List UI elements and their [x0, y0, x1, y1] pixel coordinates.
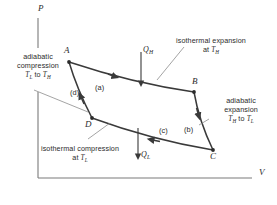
temperature-subscript-l-right: L [251, 118, 254, 124]
annotation-adiabatic-compression-line2: compression [0, 61, 76, 70]
at-prefix-th: at [203, 45, 211, 54]
step-label-d: (d) [70, 88, 79, 97]
annotation-isothermal-compression: isothermal compression at TL [24, 144, 136, 163]
step-label-c: (c) [159, 126, 168, 135]
annotation-adiabatic-expansion-line3: TH to TL [205, 114, 277, 124]
temperature-subscript-h: H [215, 49, 219, 55]
qh-subscript: H [149, 49, 153, 55]
annotation-adiabatic-expansion: adiabatic expansion TH to TL [205, 96, 277, 125]
temperature-subscript-h-left: H [47, 74, 51, 80]
to-connector-right: to [236, 114, 246, 123]
point-label-C: C [210, 152, 216, 161]
annotation-isothermal-expansion-line1: isothermal expansion [155, 36, 267, 45]
annotation-isothermal-expansion-line2: at TH [155, 45, 267, 55]
qh-symbol: Q [143, 45, 149, 54]
annotation-adiabatic-compression-line1: adiabatic [0, 52, 76, 61]
annotation-adiabatic-compression-line3: TL to TH [0, 70, 76, 80]
annotation-adiabatic-expansion-line1: adiabatic [205, 96, 277, 105]
to-connector-left: to [32, 70, 42, 79]
qh-arrowhead [138, 81, 144, 88]
ql-label: QL [141, 150, 150, 160]
process-a-curve [69, 62, 194, 92]
ql-subscript: L [147, 154, 150, 160]
step-label-a: (a) [95, 83, 104, 92]
temperature-subscript-l-left: L [29, 74, 32, 80]
annotation-adiabatic-compression: adiabatic compression TL to TH [0, 52, 76, 81]
annotation-adiabatic-expansion-line2: expansion [205, 105, 277, 114]
point-label-D: D [85, 120, 92, 129]
ql-symbol: Q [141, 150, 147, 159]
temperature-subscript-h-right: H [232, 118, 236, 124]
point-label-B: B [192, 77, 198, 86]
annotation-isothermal-compression-line2: at TL [24, 153, 136, 163]
process-c-arrowhead [150, 140, 160, 142]
carnot-cycle-figure: P V A B C D (a) (b) (c) (d) QH QL isothe… [0, 0, 277, 205]
x-axis-label: V [259, 168, 265, 177]
annotation-isothermal-compression-line1: isothermal compression [24, 144, 136, 153]
annotation-isothermal-expansion: isothermal expansion at TH [155, 36, 267, 55]
qh-label: QH [143, 45, 153, 55]
at-prefix-tl: at [72, 153, 80, 162]
vertex-B [192, 90, 196, 94]
y-axis-label: P [38, 4, 44, 13]
temperature-subscript-l-bottom: L [85, 157, 88, 163]
step-label-b: (b) [184, 125, 193, 134]
